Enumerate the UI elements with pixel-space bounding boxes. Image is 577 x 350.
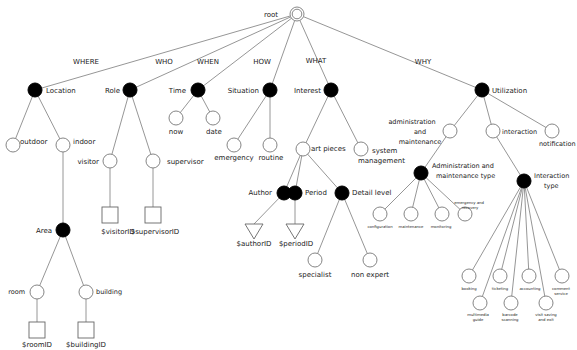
node-admin-maint-type[interactable]: Administration andmaintenance type (414, 162, 495, 180)
node-barcode-scanning[interactable]: barcodescanning (501, 296, 519, 322)
filled-dimension-node-icon (517, 174, 531, 188)
leaf-period-id[interactable]: $periodID (279, 224, 313, 248)
node-label: room (8, 288, 25, 296)
node-interaction[interactable]: interaction (486, 124, 537, 138)
open-value-node-icon (169, 111, 183, 125)
edge-area-to-building (63, 230, 86, 292)
node-label: and (414, 128, 426, 136)
open-value-node-icon (103, 154, 117, 168)
filled-dimension-node-icon (56, 223, 70, 237)
node-visitor[interactable]: visitor (77, 154, 117, 168)
node-root[interactable]: root (264, 7, 304, 21)
leaf-label: $authorID (237, 240, 272, 248)
node-interest[interactable]: Interest (294, 83, 338, 97)
node-label: Utilization (492, 87, 527, 95)
edge-label-what: WHAT (306, 57, 327, 65)
open-value-node-icon (308, 253, 322, 267)
node-comment-service[interactable]: commentservice (552, 269, 571, 296)
node-label: configuration (367, 224, 393, 229)
edge-situation-to-emergency (234, 90, 270, 145)
edge-root-to-location (35, 14, 297, 90)
node-outdoor[interactable]: outdoor (6, 138, 47, 152)
open-value-node-icon (56, 138, 70, 152)
node-accounting[interactable]: accounting (520, 269, 542, 291)
node-label: Author (248, 189, 272, 197)
filled-dimension-node-icon (28, 83, 42, 97)
node-detail-level[interactable]: Detail level (335, 186, 392, 200)
node-room[interactable]: room (8, 285, 44, 299)
node-system-management[interactable]: systemmanagement (354, 142, 405, 165)
leaf-building-id[interactable]: $buildingID (66, 322, 106, 349)
node-label: type (544, 182, 559, 190)
node-utilization[interactable]: Utilization (475, 83, 527, 97)
node-now[interactable]: now (169, 111, 184, 136)
node-label: Location (46, 87, 76, 95)
edge-interaction-type-to-ticketing (500, 181, 524, 276)
node-monitoring[interactable]: monitoring (431, 207, 452, 229)
context-tree-diagram: WHEREWHOWHENHOWWHATWHY rootLocationRoleT… (0, 0, 577, 350)
node-interaction-type[interactable]: Interactiontype (517, 172, 569, 190)
open-value-node-icon (486, 124, 500, 138)
node-label: routine (259, 154, 284, 162)
node-non-expert[interactable]: non expert (351, 253, 389, 279)
open-value-node-icon (443, 124, 457, 138)
leaf-room-id[interactable]: $roomID (22, 322, 52, 349)
node-visit-saving-exit[interactable]: visit savingand exit (535, 296, 557, 322)
leaf-visitor-id[interactable]: $visitorID (101, 207, 135, 236)
node-label: building (96, 288, 122, 296)
open-value-node-icon (354, 142, 368, 156)
node-routine[interactable]: routine (259, 138, 284, 162)
node-indoor[interactable]: indoor (56, 138, 95, 152)
square-parameter-icon (29, 322, 45, 338)
open-value-node-icon (227, 138, 241, 152)
open-value-node-icon (522, 269, 536, 283)
leaf-supervisor-id[interactable]: $supervisorID (131, 207, 180, 236)
leaf-author-id[interactable]: $authorID (237, 224, 272, 248)
edge-interest-to-art-pieces (303, 90, 331, 149)
node-notification[interactable]: notification (539, 124, 576, 148)
node-label: Interaction (534, 172, 569, 180)
node-time[interactable]: Time (168, 83, 205, 97)
node-area[interactable]: Area (36, 223, 70, 237)
open-value-node-icon (30, 285, 44, 299)
node-supervisor[interactable]: supervisor (146, 154, 204, 168)
edge-location-to-outdoor (13, 90, 35, 145)
node-label: outdoor (20, 138, 47, 146)
open-value-node-icon (504, 296, 518, 310)
filled-dimension-node-icon (414, 166, 428, 180)
edge-labels-layer: WHEREWHOWHENHOWWHATWHY (73, 57, 432, 66)
node-emergency-recovery[interactable]: emergency andrecovery (454, 200, 484, 221)
node-label: specialist (299, 271, 332, 279)
node-label: interaction (502, 128, 537, 136)
edge-label-who: WHO (155, 58, 173, 66)
node-label: Situation (228, 87, 259, 95)
root-inner-ring-icon (292, 9, 302, 19)
edge-label-where: WHERE (73, 58, 99, 66)
edge-label-how: HOW (253, 58, 271, 66)
node-building[interactable]: building (79, 285, 122, 299)
node-situation[interactable]: Situation (228, 83, 277, 97)
leaf-label: $periodID (279, 240, 313, 248)
node-label: Period (305, 189, 327, 197)
node-date[interactable]: date (206, 111, 222, 136)
node-multimedia-guide[interactable]: multimediaguide (467, 296, 489, 322)
edge-detail-level-to-specialist (315, 193, 342, 260)
filled-dimension-node-icon (324, 83, 338, 97)
leaf-label: $buildingID (66, 341, 106, 349)
edge-root-to-utilization (297, 14, 482, 90)
node-admin-maint[interactable]: administrationandmaintenance (388, 118, 457, 146)
node-configuration[interactable]: configuration (367, 207, 393, 229)
node-booking[interactable]: booking (461, 269, 477, 291)
node-role[interactable]: Role (105, 83, 137, 97)
edge-root-to-situation (270, 14, 297, 90)
node-emergency[interactable]: emergency (214, 138, 253, 162)
node-period[interactable]: Period (288, 186, 327, 200)
node-art-pieces[interactable]: art pieces (296, 142, 346, 156)
node-specialist[interactable]: specialist (299, 253, 332, 279)
node-maintenance[interactable]: maintenance (399, 207, 425, 229)
node-author[interactable]: Author (248, 186, 291, 200)
node-ticketing[interactable]: ticketing (492, 269, 509, 291)
edge-interaction-type-to-comment-service (524, 181, 562, 276)
node-label: Detail level (352, 189, 392, 197)
node-label: visitor (77, 158, 99, 166)
